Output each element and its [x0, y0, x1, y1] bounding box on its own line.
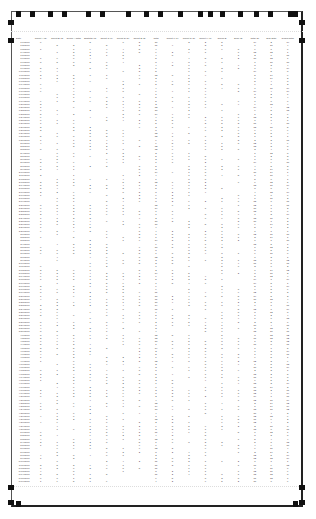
table-body: 1/1/2015656310325142141/2/20155353114356… [16, 41, 296, 483]
right-margin-handle[interactable] [299, 38, 305, 43]
column-width-handle[interactable] [48, 11, 53, 17]
column-width-handle[interactable] [126, 11, 131, 17]
column-width-handle[interactable] [30, 11, 35, 17]
value-cell: 2 [164, 480, 180, 483]
value-cell: 9 [98, 480, 114, 483]
column-width-handle[interactable] [144, 11, 149, 17]
column-header: Count C (1) [98, 37, 114, 41]
table-row: 5/16/201519519429521069 [16, 480, 296, 483]
value-cell [131, 480, 147, 483]
column-width-handle[interactable] [16, 11, 21, 17]
column-width-handle[interactable] [178, 11, 183, 17]
left-margin-handle[interactable] [8, 20, 14, 25]
column-width-handle[interactable] [293, 11, 298, 17]
column-header: Group A Total [65, 37, 81, 41]
column-width-handle[interactable] [62, 11, 67, 17]
column-width-handle[interactable] [208, 11, 213, 17]
value-cell: 10 [247, 480, 263, 483]
left-margin-handle[interactable] [8, 500, 14, 505]
bottom-margin-handle[interactable] [16, 501, 21, 507]
value-cell: 5 [65, 480, 81, 483]
value-cell: 9 [280, 480, 297, 483]
value-cell: 1 [82, 480, 98, 483]
data-table-container: DateCount A (2)Count B (2)Group A TotalS… [16, 37, 298, 483]
column-width-handle[interactable] [198, 11, 203, 17]
value-cell: 5 [214, 480, 230, 483]
column-width-handle[interactable] [86, 11, 91, 17]
date-cell: 5/16/2015 [16, 480, 32, 483]
column-width-handle[interactable] [158, 11, 163, 17]
value-cell: 4 [148, 480, 164, 483]
value-cell: 1 [32, 480, 48, 483]
value-cell: 6 [263, 480, 279, 483]
right-margin-handle[interactable] [299, 485, 305, 490]
column-header: Count B (2) [49, 37, 65, 41]
column-width-handle[interactable] [254, 11, 259, 17]
column-header: Count F (1) [164, 37, 180, 41]
left-margin-handle[interactable] [8, 485, 14, 490]
bottom-margin-guide[interactable] [11, 486, 303, 487]
right-margin-handle[interactable] [299, 20, 305, 25]
value-cell [115, 480, 131, 483]
value-cell: 9 [49, 480, 65, 483]
column-width-handle[interactable] [268, 11, 273, 17]
top-margin-guide[interactable] [11, 31, 303, 32]
column-width-handle[interactable] [238, 11, 243, 17]
value-cell [181, 480, 197, 483]
column-width-handle[interactable] [100, 11, 105, 17]
column-width-handle[interactable] [220, 11, 225, 17]
left-margin-handle[interactable] [8, 38, 14, 43]
value-cell: 2 [230, 480, 246, 483]
right-margin-handle[interactable] [299, 500, 305, 505]
bottom-margin-handle[interactable] [293, 501, 298, 507]
data-table: DateCount A (2)Count B (2)Group A TotalS… [16, 37, 296, 483]
value-cell: 9 [197, 480, 213, 483]
